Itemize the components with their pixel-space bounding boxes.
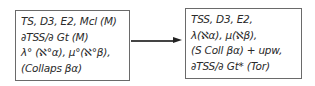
right-node-line-4: ∂TSS/∂ Gt* (Tor) <box>191 59 297 75</box>
right-node-box: TSS, D3, E2, λ(ℵα), μ(ℵβ), (S Coll βα) +… <box>185 8 302 79</box>
arrowhead-icon <box>173 37 182 43</box>
left-node-line-4: (Collaps βα) <box>21 61 125 77</box>
left-node-box: TS, D3, E2, Mcl (M) ∂TSS/∂ Gt (M) λ° (ℵ°… <box>15 10 130 81</box>
left-node-line-2: ∂TSS/∂ Gt (M) <box>21 30 125 46</box>
left-node-line-1: TS, D3, E2, Mcl (M) <box>21 14 125 30</box>
right-node-line-3: (S Coll βα) + upw, <box>191 43 297 59</box>
left-node-line-3: λ° (ℵ°α), μ°(ℵ°β), <box>21 45 125 61</box>
right-node-line-1: TSS, D3, E2, <box>191 12 297 28</box>
arrow-line <box>131 40 175 42</box>
right-node-line-2: λ(ℵα), μ(ℵβ), <box>191 28 297 44</box>
